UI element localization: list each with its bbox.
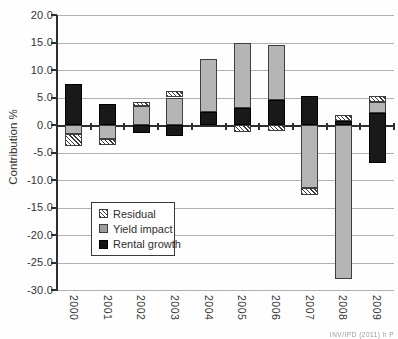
bar-2007-rental-segment [301, 96, 318, 125]
legend: Residual Yield impact Rental growth [91, 202, 175, 256]
bar-2009-rental-segment [369, 113, 386, 164]
legend-label-rental: Rental growth [113, 238, 181, 250]
legend-item-rental: Rental growth [99, 238, 174, 250]
y-tick-label--20: -20.0 [13, 230, 53, 241]
x-tick-label-2003: 2003 [169, 295, 181, 325]
gridline-15 [57, 43, 394, 44]
y-tick-label-10: 10.0 [13, 65, 53, 76]
category-tick-4 [191, 123, 193, 130]
bar-2005-yield-segment [234, 43, 251, 108]
category-tick-2 [123, 123, 125, 130]
category-tick-5 [225, 123, 227, 130]
y-tick-label--5: -5.0 [13, 147, 53, 158]
bar-2009-residual-segment [369, 96, 386, 102]
y-tick-label-0: 0.0 [13, 120, 53, 131]
y-tick-label-5: 5.0 [13, 92, 53, 103]
y-axis-line [56, 15, 58, 291]
bar-2002-yield-segment [133, 106, 150, 125]
y-tick-label-20: 20.0 [13, 10, 53, 21]
bar-2000-yield-segment [65, 125, 82, 134]
bar-2001-yield-segment [99, 125, 116, 139]
bar-2007-residual-segment [301, 188, 318, 196]
bar-2001-rental-segment [99, 104, 116, 125]
bar-2003-rental-segment [166, 125, 183, 136]
plot-area: 20.015.010.05.00.0-5.0-10.0-15.0-20.0-25… [0, 0, 398, 339]
bar-2007-yield-segment [301, 125, 318, 188]
x-tick-label-2000: 2000 [68, 295, 80, 325]
bar-2002-rental-segment [133, 125, 150, 133]
bar-2005-residual-segment [234, 125, 251, 132]
legend-label-yield: Yield impact [113, 223, 173, 235]
category-tick-8 [326, 123, 328, 130]
category-tick-9 [359, 123, 361, 130]
rental-black-swatch-icon [99, 240, 108, 249]
y-tick-label--10: -10.0 [13, 175, 53, 186]
x-tick-label-2001: 2001 [102, 295, 114, 325]
bar-2005-rental-segment [234, 108, 251, 125]
y-tick-label--15: -15.0 [13, 202, 53, 213]
bar-2001-residual-segment [99, 139, 116, 146]
bar-2008-residual-segment [335, 115, 352, 121]
yield-gray-swatch-icon [99, 224, 108, 233]
legend-label-residual: Residual [113, 208, 156, 220]
bar-2006-yield-segment [268, 45, 285, 100]
x-tick-label-2005: 2005 [236, 295, 248, 325]
x-tick-label-2009: 2009 [371, 295, 383, 325]
bar-2009-yield-segment [369, 102, 386, 113]
y-tick-label-15: 15.0 [13, 37, 53, 48]
legend-item-yield: Yield impact [99, 223, 174, 235]
bar-2008-yield-segment [335, 125, 352, 279]
bar-2003-yield-segment [166, 98, 183, 126]
caption-fragment: INV/IPD (2011) h P [330, 331, 394, 338]
category-tick-1 [90, 123, 92, 130]
category-tick-10 [393, 123, 395, 130]
category-tick-6 [258, 123, 260, 130]
gridline-5 [57, 98, 394, 99]
bar-2002-residual-segment [133, 102, 150, 106]
gridline--30 [57, 290, 394, 291]
residual-hatch-swatch-icon [99, 209, 108, 218]
bar-2006-residual-segment [268, 125, 285, 131]
x-tick-label-2002: 2002 [135, 295, 147, 325]
bar-2000-residual-segment [65, 134, 82, 146]
bar-2004-yield-segment [200, 59, 217, 112]
bar-2003-residual-segment [166, 91, 183, 98]
gridline-10 [57, 70, 394, 71]
chart-figure: Contribution % 20.015.010.05.00.0-5.0-10… [0, 0, 398, 339]
x-tick-label-2008: 2008 [337, 295, 349, 325]
x-tick-label-2004: 2004 [203, 295, 215, 325]
bar-2006-rental-segment [268, 100, 285, 125]
y-tick-label--30: -30.0 [13, 285, 53, 296]
category-tick-7 [292, 123, 294, 130]
bar-2004-rental-segment [200, 112, 217, 125]
legend-item-residual: Residual [99, 208, 174, 220]
y-tick-label--25: -25.0 [13, 257, 53, 268]
category-tick-3 [157, 123, 159, 130]
x-tick-label-2006: 2006 [270, 295, 282, 325]
bar-2000-rental-segment [65, 84, 82, 125]
gridline-20 [57, 15, 394, 16]
x-tick-label-2007: 2007 [304, 295, 316, 325]
